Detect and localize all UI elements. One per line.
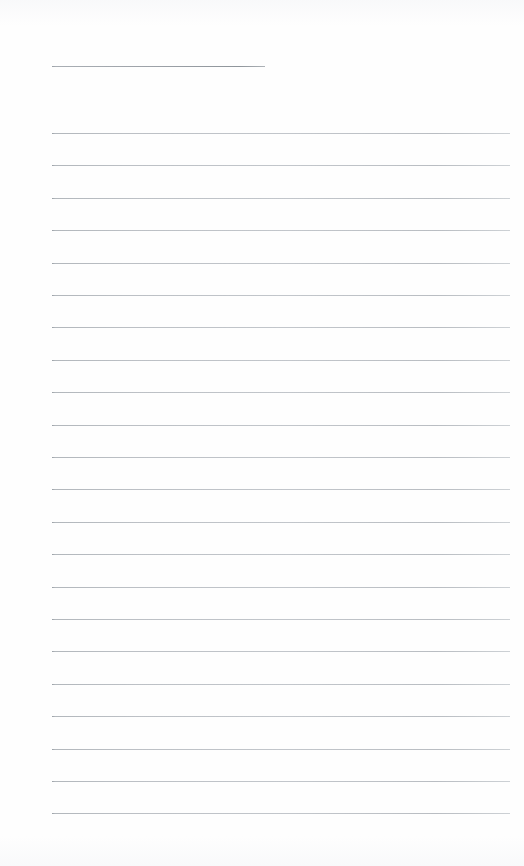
writing-rule [52,425,510,426]
notepad-page [0,0,524,866]
writing-rule [52,230,510,231]
writing-rule [52,781,510,782]
writing-rule [52,554,510,555]
writing-rule [52,360,510,361]
writing-rule [52,263,510,264]
writing-rule [52,457,510,458]
writing-rule [52,392,510,393]
writing-rule [52,619,510,620]
scan-edge-top [0,0,524,26]
writing-rule [52,489,510,490]
writing-rule [52,133,510,134]
scan-edge-bottom [0,836,524,866]
writing-rule [52,198,510,199]
writing-rule [52,651,510,652]
writing-rule [52,327,510,328]
writing-rule [52,749,510,750]
writing-rule [52,522,510,523]
writing-rule [52,684,510,685]
writing-rule [52,295,510,296]
writing-rule [52,587,510,588]
writing-rule [52,716,510,717]
title-rule [52,66,265,67]
writing-rule [52,165,510,166]
writing-rule [52,813,510,814]
